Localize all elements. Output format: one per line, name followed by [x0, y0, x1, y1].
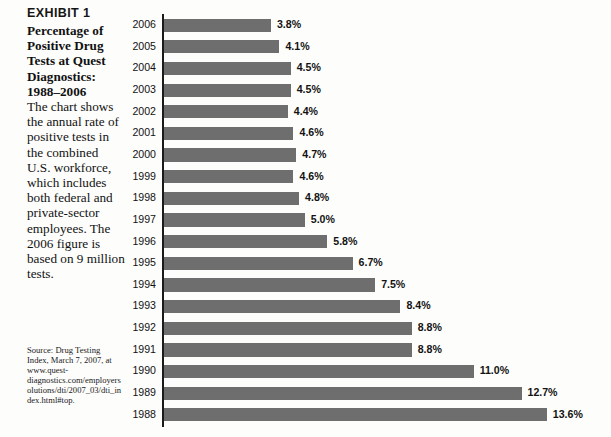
- category-label: 2005: [112, 40, 164, 53]
- category-label: 1997: [112, 213, 164, 226]
- bar-value-label: 4.6%: [299, 170, 323, 183]
- bar-row: 20014.6%: [0, 123, 611, 145]
- bar: [164, 257, 353, 270]
- category-label: 2006: [112, 18, 164, 31]
- category-label: 1990: [112, 364, 164, 377]
- category-label: 2001: [112, 126, 164, 139]
- bar-value-label: 8.8%: [418, 343, 442, 356]
- bar: [164, 300, 400, 313]
- category-label: 2002: [112, 105, 164, 118]
- bar-chart: 20063.8%20054.1%20044.5%20034.5%20024.4%…: [0, 0, 611, 437]
- bar-row: 199011.0%: [0, 361, 611, 383]
- bar: [164, 170, 293, 183]
- category-label: 2000: [112, 148, 164, 161]
- bar-row: 20024.4%: [0, 102, 611, 124]
- category-label: 1992: [112, 321, 164, 334]
- category-label: 2003: [112, 83, 164, 96]
- category-label: 1994: [112, 278, 164, 291]
- bar-row: 20034.5%: [0, 80, 611, 102]
- bar-value-label: 12.7%: [528, 386, 558, 399]
- bar-value-label: 6.7%: [359, 256, 383, 269]
- category-label: 1989: [112, 386, 164, 399]
- bar-row: 19918.8%: [0, 340, 611, 362]
- bar: [164, 322, 412, 335]
- category-label: 1998: [112, 191, 164, 204]
- bar-value-label: 4.5%: [297, 61, 321, 74]
- bar-row: 19956.7%: [0, 253, 611, 275]
- bar-value-label: 8.8%: [418, 321, 442, 334]
- bar-row: 19938.4%: [0, 296, 611, 318]
- bar: [164, 343, 412, 356]
- bar: [164, 365, 474, 378]
- bar-value-label: 8.4%: [406, 299, 430, 312]
- bar-row: 20004.7%: [0, 145, 611, 167]
- bar-value-label: 4.1%: [285, 40, 309, 53]
- bar-value-label: 5.0%: [311, 213, 335, 226]
- bar-value-label: 4.6%: [299, 126, 323, 139]
- bar-value-label: 4.5%: [297, 83, 321, 96]
- bar-row: 20054.1%: [0, 37, 611, 59]
- bar-row: 198912.7%: [0, 383, 611, 405]
- category-label: 1988: [112, 408, 164, 421]
- bar-value-label: 13.6%: [553, 408, 583, 421]
- bar: [164, 40, 279, 53]
- bar-value-label: 4.4%: [294, 105, 318, 118]
- bar-row: 19975.0%: [0, 210, 611, 232]
- category-label: 1995: [112, 256, 164, 269]
- exhibit-page: EXHIBIT 1 Percentage of Positive Drug Te…: [0, 0, 611, 437]
- bar-value-label: 4.8%: [305, 191, 329, 204]
- bar-value-label: 3.8%: [277, 18, 301, 31]
- bar: [164, 387, 522, 400]
- bar-row: 19965.8%: [0, 232, 611, 254]
- bar-row: 198813.6%: [0, 405, 611, 427]
- bar: [164, 278, 375, 291]
- bar: [164, 105, 288, 118]
- bar: [164, 19, 271, 32]
- bar: [164, 62, 291, 75]
- bar: [164, 408, 547, 421]
- category-label: 1996: [112, 235, 164, 248]
- bar-row: 20044.5%: [0, 58, 611, 80]
- bar: [164, 213, 305, 226]
- bar-value-label: 11.0%: [480, 364, 509, 377]
- category-label: 2004: [112, 61, 164, 74]
- bar-row: 19984.8%: [0, 188, 611, 210]
- bar-row: 19928.8%: [0, 318, 611, 340]
- bar: [164, 84, 291, 97]
- bar: [164, 235, 327, 248]
- bar-value-label: 4.7%: [302, 148, 326, 161]
- bar-value-label: 7.5%: [381, 278, 405, 291]
- bar: [164, 192, 299, 205]
- bar-row: 19994.6%: [0, 167, 611, 189]
- bar: [164, 148, 296, 161]
- category-label: 1993: [112, 299, 164, 312]
- bar-value-label: 5.8%: [333, 235, 357, 248]
- bar-row: 19947.5%: [0, 275, 611, 297]
- bar-row: 20063.8%: [0, 15, 611, 37]
- category-label: 1991: [112, 343, 164, 356]
- category-label: 1999: [112, 170, 164, 183]
- bar: [164, 127, 293, 140]
